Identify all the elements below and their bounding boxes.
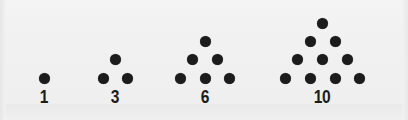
group-count-label: 6 <box>180 87 229 106</box>
group-count-label: 3 <box>90 87 139 106</box>
label-layer: 13610 <box>0 0 408 120</box>
group-count-label: 10 <box>297 87 346 106</box>
triangular-numbers-figure: 13610 <box>0 0 408 120</box>
group-count-label: 1 <box>19 87 68 106</box>
